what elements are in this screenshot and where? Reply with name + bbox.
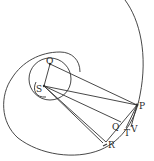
point-S bbox=[43, 85, 45, 87]
line-O-S bbox=[44, 64, 50, 86]
label-Q: Q bbox=[112, 122, 119, 132]
diagram-canvas: O S P Q T V R bbox=[0, 0, 154, 161]
label-V: V bbox=[130, 124, 138, 134]
spiral-curve bbox=[4, 0, 144, 155]
label-O: O bbox=[46, 56, 53, 66]
line-S-Q bbox=[44, 86, 121, 122]
line-S-P bbox=[44, 86, 137, 105]
line-S-R2 bbox=[44, 86, 103, 143]
point-P bbox=[136, 104, 139, 107]
label-R: R bbox=[108, 140, 115, 150]
label-P: P bbox=[139, 101, 145, 111]
tick-R bbox=[103, 144, 107, 146]
label-T: T bbox=[124, 128, 130, 138]
line-O-P bbox=[50, 64, 137, 105]
label-S: S bbox=[36, 84, 42, 94]
